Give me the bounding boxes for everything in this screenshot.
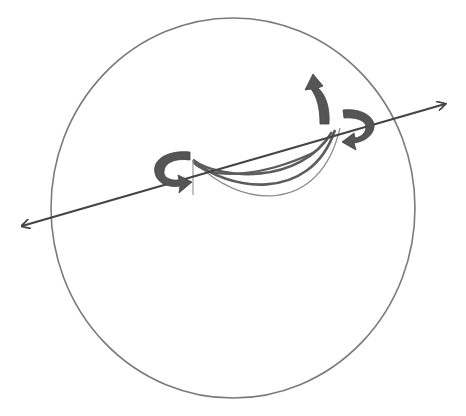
sphere-outline — [51, 18, 415, 398]
diagram-canvas — [0, 0, 466, 416]
rotation-arcs — [193, 128, 340, 196]
sphere-diagram — [0, 0, 466, 416]
up-rotation-arrow-icon — [305, 74, 329, 124]
rotation-axis — [22, 104, 445, 226]
